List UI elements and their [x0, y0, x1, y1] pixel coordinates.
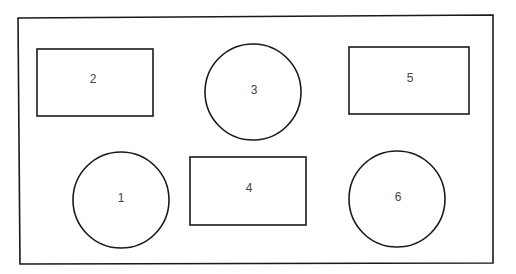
shape-2-label: 2 [90, 72, 97, 86]
shape-5-label: 5 [407, 71, 414, 85]
shape-6-label: 6 [395, 190, 402, 204]
shape-3-label: 3 [251, 83, 258, 97]
shape-4-label: 4 [246, 181, 253, 195]
shape-1-label: 1 [118, 191, 125, 205]
diagram-canvas: 2 3 5 1 4 6 [0, 0, 516, 274]
